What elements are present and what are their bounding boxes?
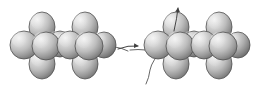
reactant-left-tail (130, 50, 146, 51)
molecular-reaction-figure: Space-filling molecular model reaction r… (0, 0, 258, 88)
figure-canvas (0, 0, 258, 88)
